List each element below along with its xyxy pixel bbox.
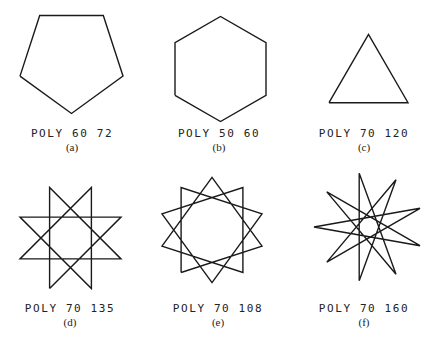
panel-f: POLY 70 160 (f)	[286, 174, 429, 348]
poly-command-label: POLY 70 108	[148, 302, 288, 315]
figure-caption: (c)	[294, 141, 429, 153]
figure-caption: (a)	[2, 141, 142, 153]
panel-b: POLY 50 60 (b)	[143, 0, 286, 174]
polygon-path	[20, 188, 121, 289]
triangle-figure	[286, 0, 429, 125]
polygon-path	[162, 177, 262, 282]
panel-e: POLY 70 108 (e)	[143, 174, 286, 348]
figure-caption: (d)	[0, 316, 140, 328]
hexagon-figure	[143, 0, 286, 125]
poly-command-label: POLY 70 120	[294, 127, 429, 140]
poly-command-label: POLY 50 60	[149, 127, 289, 140]
poly-command-label: POLY 70 160	[294, 302, 429, 315]
pentagon-figure	[0, 0, 143, 125]
panel-c: POLY 70 120 (c)	[286, 0, 429, 174]
figure-caption: (b)	[149, 141, 289, 153]
polygon-path	[329, 34, 408, 102]
eight-point-star-figure	[0, 174, 143, 299]
panel-a: POLY 60 72 (a)	[0, 0, 143, 174]
ten-point-star-figure	[143, 174, 286, 299]
polygon-path	[20, 16, 123, 114]
poly-command-label: POLY 70 135	[0, 302, 140, 315]
polygon-path	[175, 17, 266, 122]
figure-caption: (e)	[148, 316, 288, 328]
panel-d: POLY 70 135 (d)	[0, 174, 143, 348]
poly-command-label: POLY 60 72	[2, 127, 142, 140]
polygon-path	[314, 173, 420, 281]
nine-point-star-figure	[286, 174, 429, 299]
figure-caption: (f)	[294, 316, 429, 328]
